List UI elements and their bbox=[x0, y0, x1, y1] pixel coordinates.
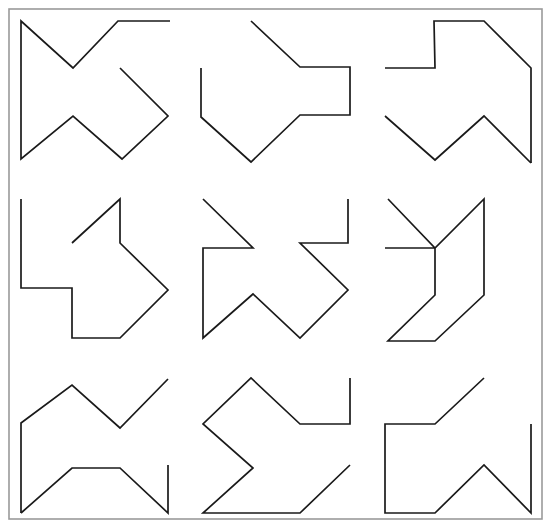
hooked-glyph-middle-left bbox=[21, 199, 168, 338]
figure-canvas bbox=[0, 0, 551, 528]
line-drawing-svg bbox=[0, 0, 551, 528]
zigzag-glyph-top-left bbox=[21, 21, 170, 159]
zigzag-arrow-glyph-bottom-center bbox=[203, 378, 350, 513]
glyph-layer bbox=[21, 21, 531, 513]
star-burst-glyph-middle-center bbox=[203, 199, 348, 338]
outer-frame bbox=[9, 9, 542, 519]
double-hook-glyph-middle-right bbox=[385, 199, 484, 341]
arrow-notch-glyph-top-center bbox=[201, 21, 350, 162]
chevron-glyph-bottom-left-lower bbox=[21, 465, 168, 513]
block-arrow-glyph-bottom-right bbox=[385, 378, 531, 513]
zigzag-glyph-top-right-lower bbox=[385, 116, 531, 163]
